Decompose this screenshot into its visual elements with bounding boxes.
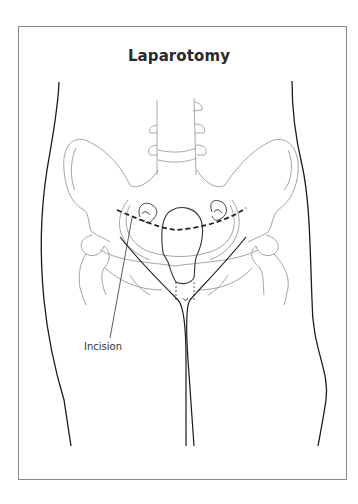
uterus <box>162 208 203 300</box>
hip-joints <box>79 235 288 305</box>
body-outline <box>41 81 326 446</box>
lumbar-spine <box>148 98 206 175</box>
pelvis <box>64 139 299 295</box>
incision-label: Incision <box>84 341 122 352</box>
incision-leader-line <box>110 218 132 338</box>
legs <box>120 237 246 446</box>
right-ovary <box>211 200 227 220</box>
laparotomy-illustration <box>0 0 358 504</box>
